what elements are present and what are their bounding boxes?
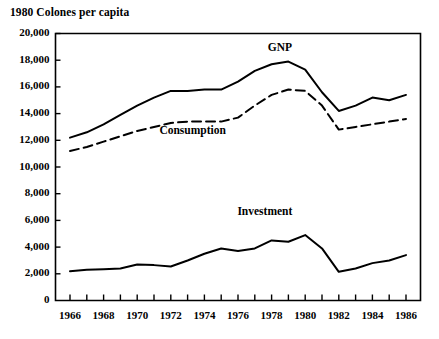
y-tick-label: 6,000 — [4, 213, 50, 225]
y-tick-label: 8,000 — [4, 186, 50, 198]
series-line-investment — [70, 235, 406, 272]
axes — [56, 34, 421, 301]
plot-frame — [56, 34, 421, 301]
series-label-investment: Investment — [237, 205, 292, 217]
y-tick-label: 14,000 — [4, 106, 50, 118]
y-tick-label: 10,000 — [4, 160, 50, 172]
series-label-consumption: Consumption — [159, 124, 225, 136]
series-label-gnp: GNP — [268, 41, 292, 53]
series-line-consumption — [70, 90, 406, 151]
y-tick-label: 4,000 — [4, 240, 50, 252]
y-tick-label: 0 — [4, 293, 50, 305]
y-tick-label: 12,000 — [4, 133, 50, 145]
x-tick-label: 1986 — [386, 309, 426, 321]
y-tick-label: 16,000 — [4, 79, 50, 91]
y-tick-label: 18,000 — [4, 53, 50, 65]
plot-area — [0, 0, 439, 339]
axis-ticks — [56, 34, 407, 301]
y-tick-label: 2,000 — [4, 266, 50, 278]
y-tick-label: 20,000 — [4, 26, 50, 38]
chart-figure: 1980 Colones per capita 02,0004,0006,000… — [0, 0, 439, 339]
data-series — [70, 62, 406, 272]
